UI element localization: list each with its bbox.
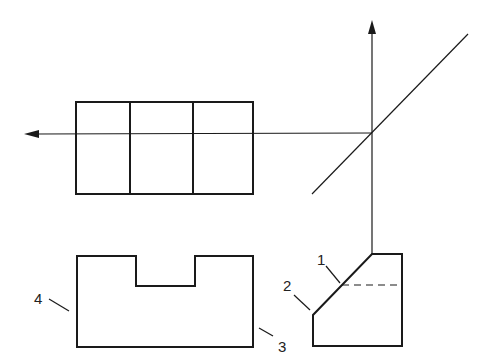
label-1: 1 [317,251,325,268]
front-view [77,256,253,347]
label-4: 4 [34,290,42,307]
label-3: 3 [278,338,286,355]
arrow-up-icon [368,20,376,34]
top-view [76,102,253,194]
orthographic-projection-diagram: 1 2 3 4 [0,0,486,364]
arrow-left-icon [24,130,39,138]
label-2: 2 [283,277,291,294]
diagram-canvas: 1 2 3 4 [0,0,486,364]
side-view [313,254,402,346]
